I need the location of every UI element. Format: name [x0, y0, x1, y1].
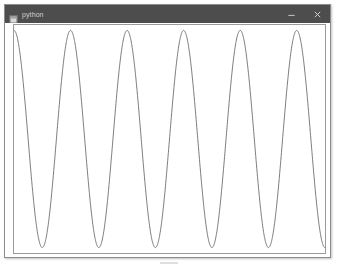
application-window: python: [4, 4, 331, 258]
close-button[interactable]: [304, 5, 330, 23]
sine-wave-curve: [14, 30, 325, 247]
python-app-icon: [9, 10, 18, 19]
window-controls: [278, 5, 330, 23]
minimize-button[interactable]: [278, 5, 304, 23]
title-bar-left-group: python: [9, 10, 44, 19]
plot-axes-frame: [13, 24, 326, 254]
figure-canvas: [5, 23, 330, 257]
window-title-text: python: [22, 10, 44, 19]
window-title-bar[interactable]: python: [5, 5, 330, 23]
window-drop-shadow: [160, 262, 178, 264]
waveform-plot: [14, 25, 325, 253]
desktop-background: python: [0, 0, 338, 269]
